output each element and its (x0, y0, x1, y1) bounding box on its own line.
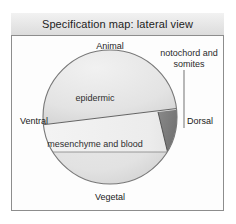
axis-label-animal: Animal (96, 41, 124, 51)
specification-map-figure: Specification map: lateral view (0, 0, 236, 224)
axis-label-dorsal: Dorsal (187, 116, 213, 126)
region-label-epidermic: epidermic (75, 93, 114, 103)
region-label-mesenchyme-and-blood: mesenchyme and blood (47, 139, 143, 149)
figure-title-band: Specification map: lateral view (11, 13, 224, 36)
page-title: Specification map: lateral view (42, 18, 193, 30)
diagram-plot-area: Animal Vegetal Ventral Dorsal notochord … (11, 36, 224, 211)
axis-label-vegetal: Vegetal (95, 192, 125, 202)
axis-label-ventral: Ventral (20, 116, 48, 126)
callout-label-notochord-and-somites: notochord and somites (154, 48, 224, 70)
